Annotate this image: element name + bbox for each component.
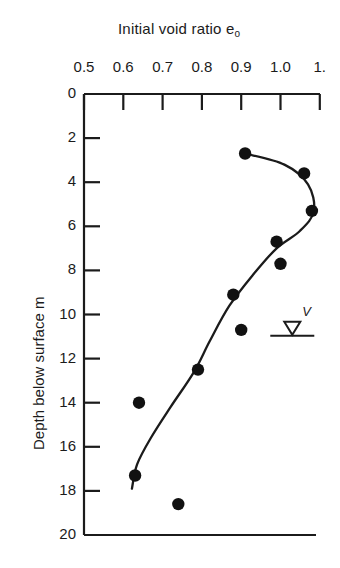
y-tick-marks [84,138,100,491]
data-point [129,469,141,481]
data-point [306,205,318,217]
data-point [298,167,310,179]
data-point [172,498,184,510]
data-point [235,324,247,336]
data-point [270,236,282,248]
data-point [239,147,251,159]
data-point [274,258,286,270]
axis-lines [84,94,320,535]
data-point [192,363,204,375]
plot-area [0,0,340,568]
chart-figure: Initial void ratio eo Depth below surfac… [0,0,340,568]
data-point [133,397,145,409]
water-table-symbol [270,322,314,336]
water-table-triangle-icon [284,322,300,335]
data-point [227,289,239,301]
x-tick-marks [84,94,320,110]
water-table-label: V [302,304,311,319]
